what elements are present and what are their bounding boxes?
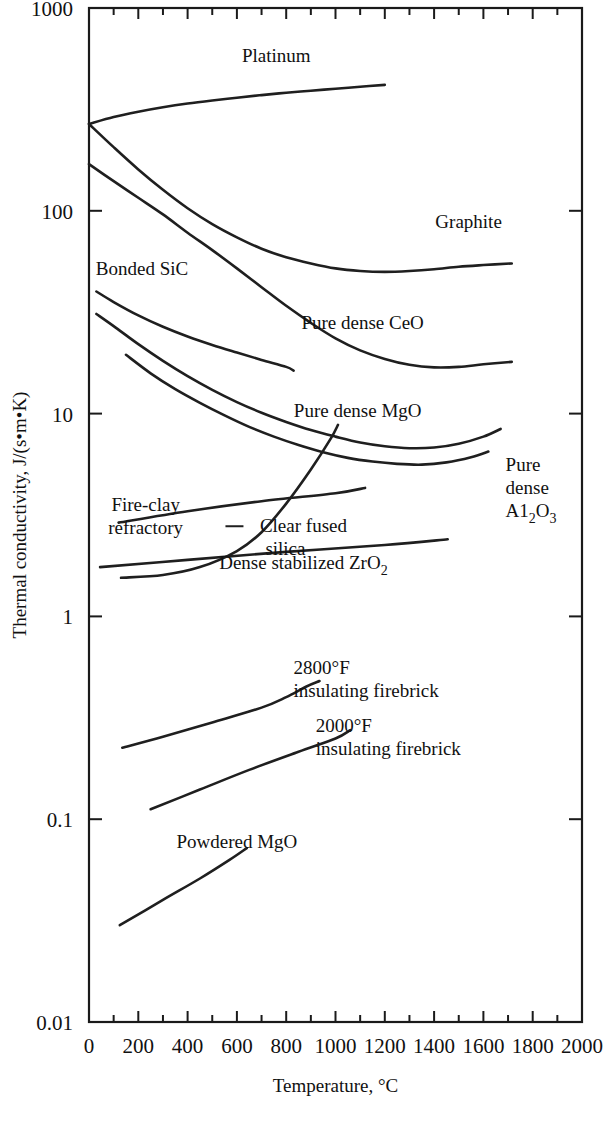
curve-label-dense-stabilized-zro2: Dense stabilized ZrO2 <box>219 552 387 578</box>
x-tick-label: 0 <box>84 1034 95 1058</box>
y-axis-title: Thermal conductivity, J/(s•m•K) <box>9 392 31 639</box>
curve-label-graphite: Graphite <box>435 211 501 232</box>
y-tick-label: 10 <box>52 403 73 427</box>
x-tick-label: 1200 <box>364 1034 406 1058</box>
curve-label-bonded-sic: Bonded SiC <box>96 258 188 279</box>
curve-label-pure-dense-al2o3: PuredenseA12O3 <box>506 454 557 526</box>
x-tick-label: 1600 <box>462 1034 504 1058</box>
curve-label-fire-clay-refractory: Fire-clayrefractory <box>108 494 183 538</box>
curve-pure-dense-mgo <box>96 314 500 448</box>
y-tick-label: 0.01 <box>36 1011 73 1035</box>
curve-label-pure-dense-mgo: Pure dense MgO <box>294 400 422 421</box>
y-tick-label: 0.1 <box>47 808 73 832</box>
thermal-conductivity-chart: 02004006008001000120014001600180020000.0… <box>0 0 615 1121</box>
x-tick-label: 200 <box>123 1034 155 1058</box>
curve-powdered-mgo <box>120 848 247 925</box>
curve-platinum <box>89 85 385 124</box>
x-tick-label: 400 <box>172 1034 204 1058</box>
x-tick-label: 1000 <box>315 1034 357 1058</box>
y-tick-label: 100 <box>42 200 74 224</box>
curve-bonded-sic <box>96 292 293 371</box>
x-tick-label: 1400 <box>413 1034 455 1058</box>
y-tick-label: 1 <box>63 605 74 629</box>
x-tick-label: 1800 <box>512 1034 554 1058</box>
curve-label-powdered-mgo: Powdered MgO <box>176 831 297 852</box>
curve-label-platinum: Platinum <box>242 45 311 66</box>
y-tick-label: 1000 <box>31 0 73 21</box>
curve-2800f-insulating-firebrick <box>122 681 319 748</box>
x-tick-label: 800 <box>270 1034 302 1058</box>
curve-label-2800f-insulating-firebrick: 2800°Finsulating firebrick <box>294 657 440 701</box>
chart-svg: 02004006008001000120014001600180020000.0… <box>0 0 615 1121</box>
curve-graphite <box>89 124 512 272</box>
x-axis-title: Temperature, °C <box>273 1075 399 1096</box>
curve-label-pure-dense-ceo: Pure dense CeO <box>301 312 423 333</box>
x-tick-label: 2000 <box>561 1034 603 1058</box>
x-tick-label: 600 <box>221 1034 253 1058</box>
